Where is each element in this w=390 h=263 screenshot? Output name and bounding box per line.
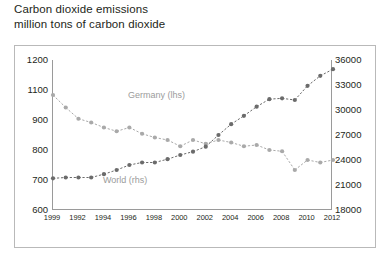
data-point bbox=[115, 168, 119, 172]
y-axis-left: 12001100900800700600 bbox=[15, 46, 48, 226]
series-germany bbox=[51, 93, 335, 172]
data-point bbox=[165, 138, 169, 142]
data-point bbox=[102, 125, 106, 129]
data-point bbox=[51, 93, 55, 97]
y-tick-right: 30000 bbox=[335, 105, 361, 115]
y-tick-left: 900 bbox=[32, 115, 48, 125]
data-point bbox=[242, 144, 246, 148]
x-tick: 1992 bbox=[69, 213, 85, 222]
data-point bbox=[216, 138, 220, 142]
x-tick: 2006 bbox=[247, 213, 263, 222]
x-tick: 2000 bbox=[171, 213, 187, 222]
x-tick: 1994 bbox=[95, 213, 111, 222]
data-point bbox=[305, 158, 309, 162]
series-layer bbox=[53, 60, 333, 210]
data-point bbox=[229, 140, 233, 144]
data-point bbox=[229, 122, 233, 126]
x-tick: 1999 bbox=[44, 213, 60, 222]
y-tick-left: 1200 bbox=[27, 55, 48, 65]
data-point bbox=[267, 97, 271, 101]
data-point bbox=[127, 163, 131, 167]
x-tick: 2004 bbox=[222, 213, 238, 222]
y-tick-right: 27000 bbox=[335, 130, 361, 140]
data-point bbox=[178, 153, 182, 157]
data-point bbox=[216, 133, 220, 137]
data-point bbox=[293, 168, 297, 172]
data-point bbox=[191, 150, 195, 154]
x-tick: 2012 bbox=[324, 213, 340, 222]
y-tick-left: 1100 bbox=[28, 85, 48, 95]
data-point bbox=[331, 158, 335, 162]
y-tick-left: 700 bbox=[32, 175, 48, 185]
data-point bbox=[280, 149, 284, 153]
y-axis-right: 36000330003000027000240002100018000 bbox=[335, 46, 377, 226]
y-tick-right: 33000 bbox=[335, 80, 361, 90]
data-point bbox=[64, 105, 68, 109]
data-point bbox=[140, 160, 144, 164]
data-point bbox=[115, 129, 119, 133]
data-point bbox=[51, 176, 55, 180]
series-world bbox=[51, 67, 335, 180]
data-point bbox=[293, 98, 297, 102]
data-point bbox=[153, 160, 157, 164]
data-point bbox=[127, 125, 131, 129]
x-axis: 1999199219941996199820002002200420062008… bbox=[52, 213, 332, 227]
data-point bbox=[178, 144, 182, 148]
y-tick-left: 800 bbox=[32, 145, 48, 155]
y-tick-right: 36000 bbox=[335, 55, 361, 65]
data-point bbox=[140, 132, 144, 136]
data-point bbox=[242, 114, 246, 118]
x-tick: 1998 bbox=[146, 213, 162, 222]
data-point bbox=[76, 117, 80, 121]
series-label-germany: Germany (lhs) bbox=[128, 90, 185, 100]
data-point bbox=[64, 175, 68, 179]
data-point bbox=[280, 96, 284, 100]
data-point bbox=[318, 74, 322, 78]
x-tick: 2010 bbox=[298, 213, 314, 222]
data-point bbox=[153, 135, 157, 139]
data-point bbox=[331, 67, 335, 71]
y-tick-right: 21000 bbox=[335, 180, 361, 190]
data-point bbox=[191, 138, 195, 142]
data-point bbox=[89, 120, 93, 124]
data-point bbox=[165, 157, 169, 161]
data-point bbox=[255, 143, 259, 147]
chart-heading: Carbon dioxide emissions million tons of… bbox=[14, 2, 374, 32]
data-point bbox=[255, 105, 259, 109]
x-tick: 2002 bbox=[197, 213, 213, 222]
data-point bbox=[89, 175, 93, 179]
chart-frame: 12001100900800700600 3600033000300002700… bbox=[14, 45, 376, 248]
plot-area: Germany (lhs) World (rhs) bbox=[52, 60, 332, 210]
series-label-world: World (rhs) bbox=[103, 175, 147, 185]
data-point bbox=[267, 148, 271, 152]
data-point bbox=[76, 175, 80, 179]
data-point bbox=[318, 160, 322, 164]
data-point bbox=[305, 84, 309, 88]
x-tick: 2008 bbox=[273, 213, 289, 222]
chart-title: Carbon dioxide emissions bbox=[14, 2, 374, 17]
x-tick: 1996 bbox=[120, 213, 136, 222]
data-point bbox=[204, 145, 208, 149]
y-tick-right: 24000 bbox=[335, 155, 361, 165]
chart-subtitle: million tons of carbon dioxide bbox=[14, 17, 374, 32]
